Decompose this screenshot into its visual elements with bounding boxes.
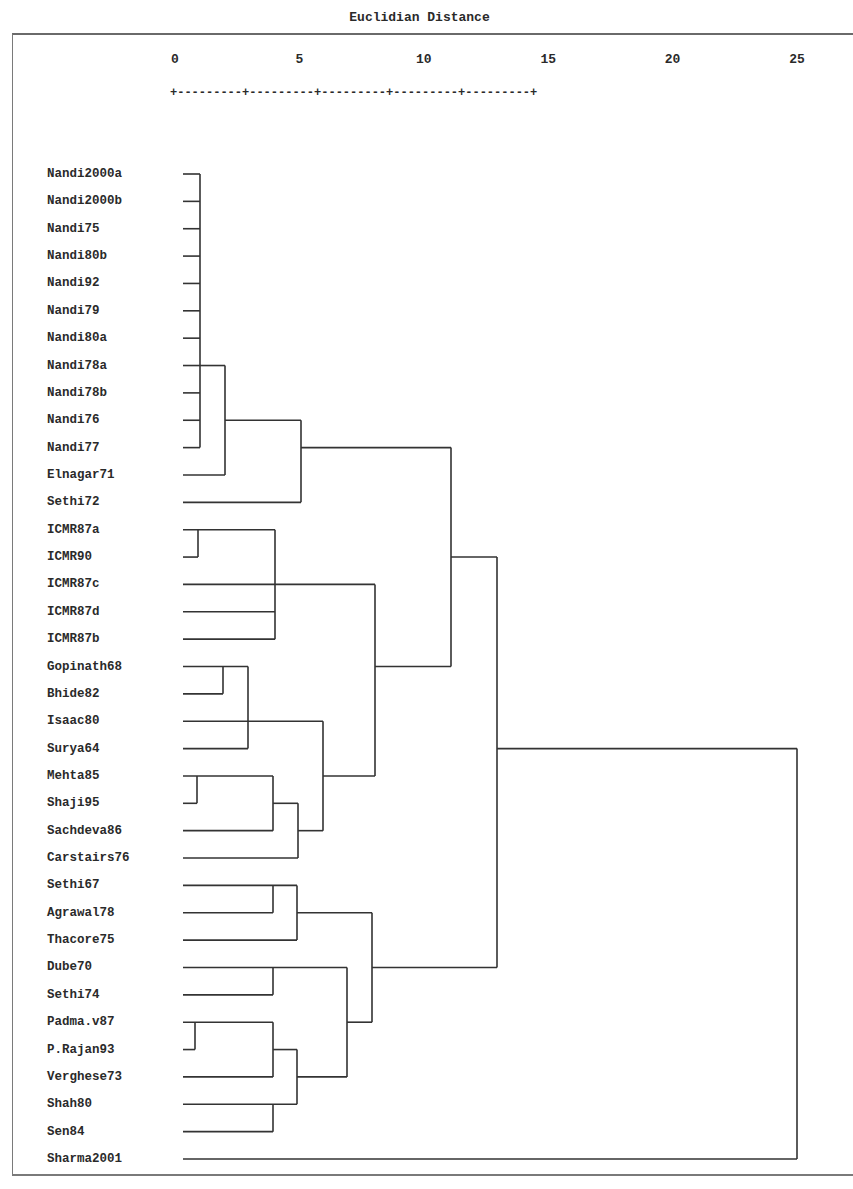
dendrogram-tree	[0, 0, 839, 1189]
